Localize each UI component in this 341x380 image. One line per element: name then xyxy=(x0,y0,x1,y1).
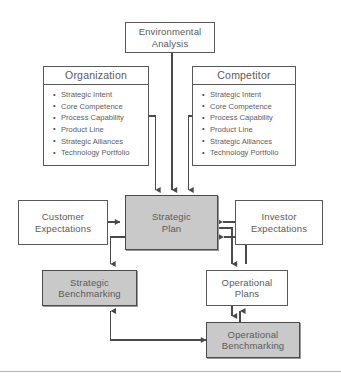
node-strategic-benchmarking[interactable]: Strategic Benchmarking xyxy=(42,270,137,306)
node-investor-expectations-label: Investor Expectations xyxy=(251,211,307,233)
list-item: Product Line xyxy=(53,124,148,136)
node-competitor-list: Strategic Intent Core Competence Process… xyxy=(193,85,295,161)
node-customer-expectations-label: Customer Expectations xyxy=(35,211,91,233)
node-operational-benchmarking-label: Operational Benchmarking xyxy=(222,329,285,351)
list-item: Technology Portfolio xyxy=(202,147,295,159)
list-item: Strategic Intent xyxy=(53,89,148,101)
node-organization[interactable]: Organization Strategic Intent Core Compe… xyxy=(43,66,149,166)
node-strategic-plan-label: Strategic Plan xyxy=(152,211,191,233)
list-item: Strategic Alliances xyxy=(53,136,148,148)
node-strategic-benchmarking-label: Strategic Benchmarking xyxy=(58,277,121,299)
connector-operational-benchmarking-to-strategic-benchmarking xyxy=(111,311,205,340)
node-customer-expectations[interactable]: Customer Expectations xyxy=(18,200,108,245)
connector-strategic-plan-to-operational-plans xyxy=(218,228,232,264)
bottom-divider xyxy=(0,371,341,372)
node-operational-plans-label: Operational Plans xyxy=(222,277,273,299)
node-organization-list: Strategic Intent Core Competence Process… xyxy=(44,85,148,161)
list-item: Process Capability xyxy=(53,112,148,124)
diagram-canvas: Environmental Analysis Organization Stra… xyxy=(0,0,341,380)
list-item: Process Capability xyxy=(202,112,295,124)
node-operational-plans[interactable]: Operational Plans xyxy=(206,270,288,306)
list-item: Strategic Alliances xyxy=(202,136,295,148)
list-item: Technology Portfolio xyxy=(53,147,148,159)
list-item: Product Line xyxy=(202,124,295,136)
list-item: Strategic Intent xyxy=(202,89,295,101)
connector-strategic-plan-to-strategic-benchmarking xyxy=(111,237,126,264)
list-item: Core Competence xyxy=(202,101,295,113)
node-investor-expectations[interactable]: Investor Expectations xyxy=(235,200,323,245)
node-strategic-plan[interactable]: Strategic Plan xyxy=(125,195,218,250)
list-item: Core Competence xyxy=(53,101,148,113)
connector-organization-to-strategic-plan xyxy=(148,116,156,190)
node-operational-benchmarking[interactable]: Operational Benchmarking xyxy=(206,322,300,358)
node-competitor[interactable]: Competitor Strategic Intent Core Compete… xyxy=(192,66,296,166)
node-environmental-analysis[interactable]: Environmental Analysis xyxy=(125,22,215,53)
node-organization-header: Organization xyxy=(44,67,148,85)
node-environmental-analysis-label: Environmental Analysis xyxy=(139,26,202,48)
node-competitor-header: Competitor xyxy=(193,67,295,85)
